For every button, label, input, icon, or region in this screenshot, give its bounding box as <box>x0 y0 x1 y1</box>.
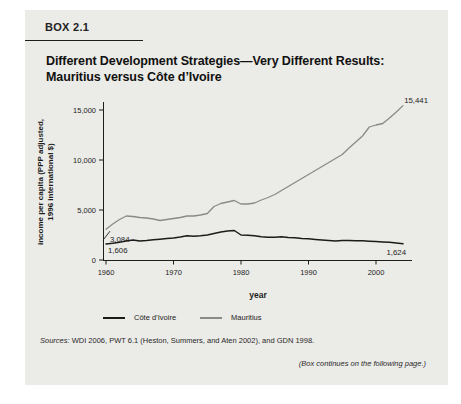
mauritius-line <box>106 106 403 230</box>
line-chart: 05,00010,00015,00019601970198019902000in… <box>28 92 438 305</box>
box-title: Different Development Strategies—Very Di… <box>46 53 426 85</box>
x-tick-label: 1980 <box>233 268 250 277</box>
box-title-line2: Mauritius versus Côte d’Ivoire <box>46 69 426 85</box>
legend-item: Côte d’Ivoire <box>103 313 176 322</box>
x-tick-label: 1970 <box>165 268 182 277</box>
sources-text: WDI 2006, PWT 6.1 (Heston, Summers, and … <box>70 336 315 345</box>
chart-legend: Côte d’IvoireMauritius <box>103 313 448 322</box>
data-label: 3,084 <box>110 235 130 244</box>
y-tick-label: 10,000 <box>73 156 96 165</box>
x-axis-title: year <box>249 290 267 300</box>
y-axis-title: income per capita (PPP adjusted, <box>36 119 45 245</box>
sources-label: Sources: <box>40 336 70 345</box>
y-tick-label: 5,000 <box>77 206 96 215</box>
data-label: 15,441 <box>404 96 428 105</box>
y-axis-title: 1996 international $) <box>46 143 55 221</box>
box-continues-note: (Box continues on the following page.) <box>25 359 426 368</box>
legend-item: Mauritius <box>200 313 261 322</box>
x-tick-label: 1990 <box>300 268 317 277</box>
legend-label: Côte d’Ivoire <box>134 313 176 322</box>
y-tick-label: 0 <box>92 256 96 265</box>
data-label: 1,624 <box>386 248 406 257</box>
x-tick-label: 2000 <box>368 268 385 277</box>
box-label: BOX 2.1 <box>45 21 448 33</box>
legend-line-swatch <box>200 317 222 319</box>
legend-line-swatch <box>103 317 125 319</box>
chart-area: 05,00010,00015,00019601970198019902000in… <box>28 92 448 309</box>
data-label: 1,606 <box>108 246 128 255</box>
x-tick-label: 1960 <box>98 268 115 277</box>
cote-divoire-line <box>106 231 403 244</box>
legend-label: Mauritius <box>231 313 261 322</box>
box-title-line1: Different Development Strategies—Very Di… <box>46 53 426 69</box>
box-2-1: BOX 2.1 Different Development Strategies… <box>25 10 448 385</box>
annotation-leader <box>103 231 110 240</box>
box-label-rule <box>25 40 143 41</box>
y-tick-label: 15,000 <box>73 106 96 115</box>
sources-note: Sources: WDI 2006, PWT 6.1 (Heston, Summ… <box>40 336 426 345</box>
